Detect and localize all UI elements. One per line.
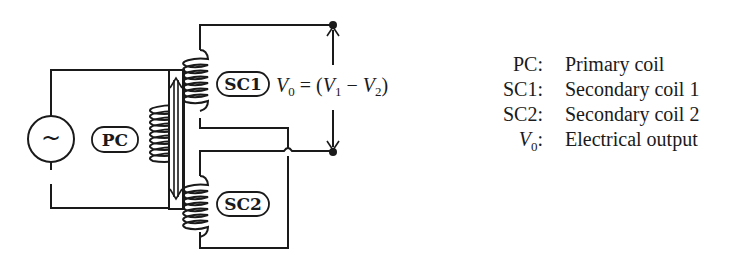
- source-symbol: ~: [41, 124, 61, 152]
- output-equation: V0 = (V1 − V2): [276, 74, 388, 99]
- core-tube: [169, 70, 183, 209]
- secondary-coil-1-label: SC1: [217, 72, 269, 96]
- svg-text:SC2: SC2: [224, 194, 262, 214]
- legend: PC: Primary coil SC1: Secondary coil 1 S…: [470, 52, 699, 159]
- legend-value: Primary coil: [543, 52, 664, 77]
- legend-value: Secondary coil 2: [543, 102, 699, 127]
- legend-key: PC:: [470, 52, 543, 77]
- legend-value: Secondary coil 1: [543, 77, 699, 102]
- ac-source-icon: ~: [28, 116, 74, 162]
- legend-row: SC2: Secondary coil 2: [470, 102, 699, 127]
- legend-row: V0: Electrical output: [470, 127, 699, 159]
- legend-row: PC: Primary coil: [470, 52, 699, 77]
- lvdt-circuit-diagram: ~ PC SC1 SC2: [0, 0, 460, 258]
- secondary-coil-2-label: SC2: [217, 192, 269, 216]
- svg-text:PC: PC: [102, 130, 128, 150]
- legend-key: V0:: [470, 127, 543, 159]
- legend-key: SC1:: [470, 77, 543, 102]
- primary-coil-label: PC: [92, 127, 138, 152]
- legend-key: SC2:: [470, 102, 543, 127]
- svg-text:SC1: SC1: [224, 74, 262, 94]
- legend-value: Electrical output: [543, 127, 698, 159]
- legend-row: SC1: Secondary coil 1: [470, 77, 699, 102]
